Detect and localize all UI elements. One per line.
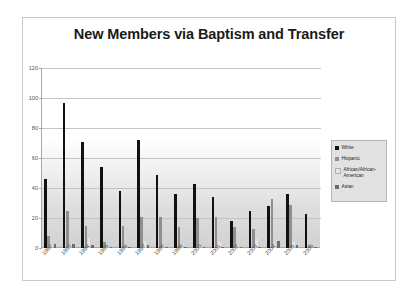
x-axis-label-cell: 1999: [171, 250, 190, 290]
bar: [100, 167, 103, 248]
bar: [277, 241, 280, 249]
bar: [91, 245, 94, 248]
x-axis-label-cell: 1997: [134, 250, 153, 290]
bar-group: [227, 68, 246, 248]
bar-group: [208, 68, 227, 248]
y-axis-label: 100: [16, 95, 38, 101]
bar-group: [171, 68, 190, 248]
bar-groups: [41, 68, 320, 248]
x-axis-label-cell: 1995: [97, 250, 116, 290]
x-axis-label-cell: 1994: [78, 250, 97, 290]
chart-legend: WhiteHispanicAfrican/African-AmericanAsi…: [331, 140, 387, 202]
plot-wrapper: 020406080100120: [41, 68, 320, 248]
chart-title: New Members via Baptism and Transfer: [22, 26, 396, 42]
legend-item[interactable]: African/African-American: [335, 167, 383, 179]
x-axis-label-cell: 1996: [115, 250, 134, 290]
bar-group: [246, 68, 265, 248]
chart-screenshot: New Members via Baptism and Transfer 020…: [0, 0, 418, 299]
x-axis-label-cell: 2005: [283, 250, 302, 290]
bar-group: [283, 68, 302, 248]
legend-item-label: White: [342, 145, 354, 151]
x-axis-label-cell: 2006: [301, 250, 320, 290]
legend-item-label: Asian: [342, 184, 354, 190]
bar-group: [78, 68, 97, 248]
legend-swatch-icon: [335, 185, 339, 189]
y-axis-label: 40: [16, 185, 38, 191]
bar: [72, 244, 75, 249]
x-axis-label-cell: 1993: [60, 250, 79, 290]
y-axis-label: 120: [16, 65, 38, 71]
legend-item[interactable]: Asian: [335, 184, 383, 190]
y-axis-label: 80: [16, 125, 38, 131]
legend-item[interactable]: Hispanic: [335, 156, 383, 162]
bar-group: [153, 68, 172, 248]
bar-group: [190, 68, 209, 248]
x-axis-label-cell: 2003: [246, 250, 265, 290]
x-axis-label-cell: 2002: [227, 250, 246, 290]
x-axis-label-cell: 1998: [153, 250, 172, 290]
bar-group: [41, 68, 60, 248]
bar-group: [97, 68, 116, 248]
legend-swatch-icon: [335, 157, 339, 161]
y-axis-label: 0: [16, 245, 38, 251]
bar: [271, 199, 274, 249]
bar-group: [264, 68, 283, 248]
legend-item-label: African/African-American: [344, 167, 384, 179]
bar: [147, 245, 150, 248]
legend-swatch-icon: [335, 146, 339, 150]
x-axis-label-cell: 2001: [208, 250, 227, 290]
x-axis-label-cell: 1992: [41, 250, 60, 290]
bar: [54, 244, 57, 249]
y-axis-tick: [39, 248, 42, 249]
bar-group: [134, 68, 153, 248]
bar: [305, 214, 308, 249]
legend-swatch-icon: [335, 168, 341, 174]
legend-item[interactable]: White: [335, 145, 383, 151]
bar-group: [60, 68, 79, 248]
legend-item-label: Hispanic: [342, 156, 360, 162]
y-axis-label: 20: [16, 215, 38, 221]
bar: [184, 247, 187, 249]
x-axis-label-cell: 2000: [190, 250, 209, 290]
bar-group: [301, 68, 320, 248]
x-axis-label-cell: 2004: [264, 250, 283, 290]
bar-group: [115, 68, 134, 248]
y-axis-label: 60: [16, 155, 38, 161]
x-axis-labels: 1992199319941995199619971998199920002001…: [41, 250, 320, 290]
